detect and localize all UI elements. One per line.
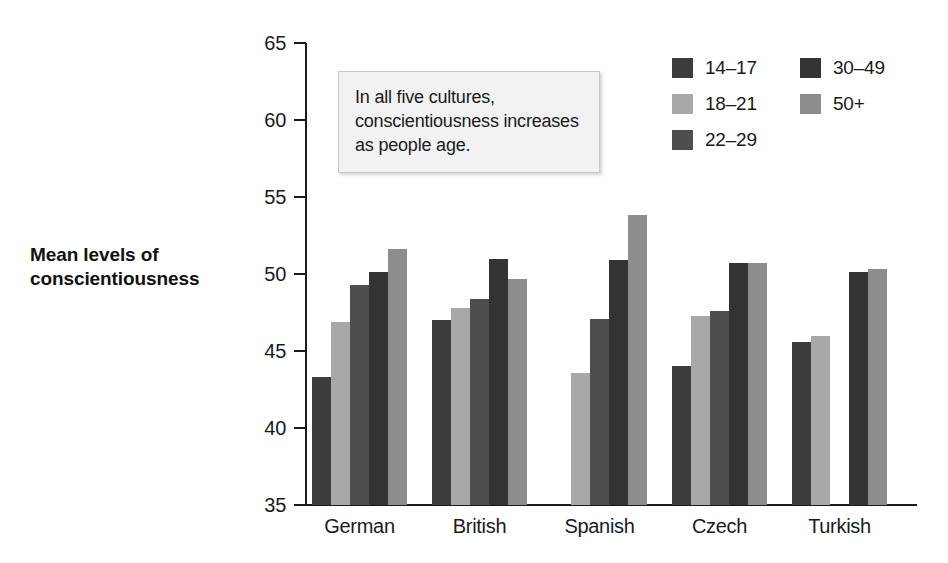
legend-label: 50+ <box>833 93 865 115</box>
legend-item: 30–49 <box>800 52 885 84</box>
bar-chart-figure: Mean levels of conscientiousness 3540455… <box>0 0 948 563</box>
bar <box>331 322 350 505</box>
legend-label: 14–17 <box>705 57 757 79</box>
y-axis-tick-label: 40 <box>246 417 286 440</box>
legend-label: 30–49 <box>833 57 885 79</box>
bar <box>672 366 691 505</box>
y-axis-tick-label: 45 <box>246 340 286 363</box>
bar <box>432 320 451 505</box>
bar <box>628 215 647 505</box>
y-axis-tick-label: 60 <box>246 109 286 132</box>
bar <box>691 316 710 505</box>
bar <box>710 311 729 505</box>
legend-column-right: 30–4950+ <box>800 52 885 124</box>
bar <box>451 308 470 505</box>
y-axis-tick <box>294 504 306 506</box>
bar <box>748 263 767 505</box>
x-axis-category-label: Spanish <box>530 515 670 538</box>
bar <box>470 299 489 505</box>
bar <box>489 259 508 505</box>
x-axis-category-label: German <box>290 515 430 538</box>
bar <box>369 272 388 505</box>
y-axis-tick <box>294 196 306 198</box>
y-axis-tick <box>294 427 306 429</box>
bar <box>811 336 830 505</box>
legend-swatch-icon <box>672 130 693 150</box>
x-axis-category-label: Czech <box>650 515 790 538</box>
y-axis-tick-label: 35 <box>246 494 286 517</box>
y-axis-tick-label: 65 <box>246 32 286 55</box>
bar <box>388 249 407 505</box>
bar <box>571 373 590 505</box>
bar <box>350 285 369 505</box>
y-axis-tick-label: 50 <box>246 263 286 286</box>
legend-label: 22–29 <box>705 129 757 151</box>
legend-item: 14–17 <box>672 52 757 84</box>
x-axis-category-label: Turkish <box>770 515 910 538</box>
x-axis-category-label: British <box>410 515 550 538</box>
legend-item: 50+ <box>800 88 885 120</box>
y-axis-tick <box>294 273 306 275</box>
y-axis-tick <box>294 119 306 121</box>
legend-item: 18–21 <box>672 88 757 120</box>
bar <box>609 260 628 505</box>
y-axis-title: Mean levels of conscientiousness <box>30 243 240 292</box>
bar <box>729 263 748 505</box>
annotation-callout: In all five cultures, conscientiousness … <box>338 71 600 173</box>
bar <box>590 319 609 505</box>
legend-swatch-icon <box>800 58 821 78</box>
bar <box>849 272 868 505</box>
legend-item: 22–29 <box>672 124 757 156</box>
y-axis-tick <box>294 350 306 352</box>
legend-swatch-icon <box>672 58 693 78</box>
y-axis-tick-label: 55 <box>246 186 286 209</box>
bar <box>868 269 887 505</box>
bar <box>792 342 811 505</box>
legend-swatch-icon <box>800 94 821 114</box>
bar <box>508 279 527 505</box>
legend-column-left: 14–1718–2122–29 <box>672 52 757 160</box>
legend-swatch-icon <box>672 94 693 114</box>
bar <box>312 377 331 505</box>
y-axis-tick-labels: 35404550556065 <box>238 0 286 563</box>
legend-label: 18–21 <box>705 93 757 115</box>
y-axis-tick <box>294 42 306 44</box>
